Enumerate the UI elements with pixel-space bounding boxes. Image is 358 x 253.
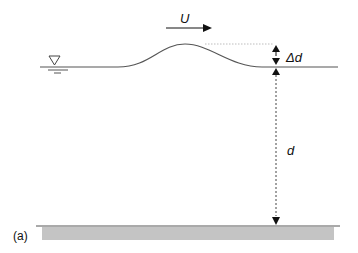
amplitude-label: Δd [285,50,303,65]
solitary-wave-diagram: U Δd d (a) [0,0,358,253]
amplitude-arrows [272,45,280,75]
depth-label: d [287,143,295,158]
depth-arrowhead [272,217,280,225]
seabed-fill [42,227,334,240]
water-level-triangle-icon [48,56,68,73]
velocity-label: U [180,11,190,26]
panel-label: (a) [13,229,28,243]
